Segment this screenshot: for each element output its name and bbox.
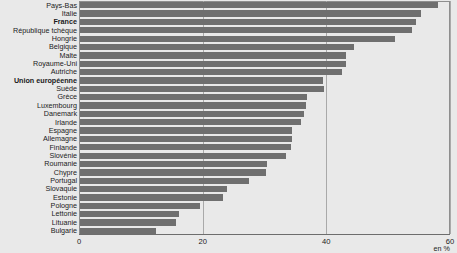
bar (80, 69, 342, 75)
x-axis-line (79, 234, 450, 237)
bar (80, 219, 176, 225)
bar (80, 119, 301, 125)
bar (80, 169, 266, 175)
bar (80, 127, 292, 133)
bar (80, 111, 304, 117)
bar (80, 52, 346, 58)
x-tick-20: 20 (198, 237, 206, 246)
bar (80, 144, 291, 150)
bar (80, 27, 412, 33)
bar (80, 2, 438, 8)
bar-label: Bulgarie (0, 226, 77, 235)
bar (80, 36, 395, 42)
bar-chart: Pays-BasItalieFranceRépublique tchèqueHo… (0, 0, 457, 253)
bar (80, 77, 323, 83)
bar (80, 19, 416, 25)
bar (80, 44, 354, 50)
bar (80, 186, 227, 192)
bar (80, 86, 324, 92)
bar (80, 178, 249, 184)
bar (80, 102, 306, 108)
bar (80, 136, 292, 142)
x-tick-0: 0 (77, 237, 81, 246)
bar-rows: Pays-BasItalieFranceRépublique tchèqueHo… (0, 1, 457, 235)
bar (80, 10, 421, 16)
bar (80, 161, 267, 167)
bar (80, 211, 179, 217)
bar (80, 153, 286, 159)
bar (80, 194, 223, 200)
x-tick-40: 40 (322, 237, 330, 246)
bar (80, 203, 200, 209)
axis-unit-label: en % (434, 245, 450, 253)
bar (80, 61, 346, 67)
bar (80, 94, 307, 100)
